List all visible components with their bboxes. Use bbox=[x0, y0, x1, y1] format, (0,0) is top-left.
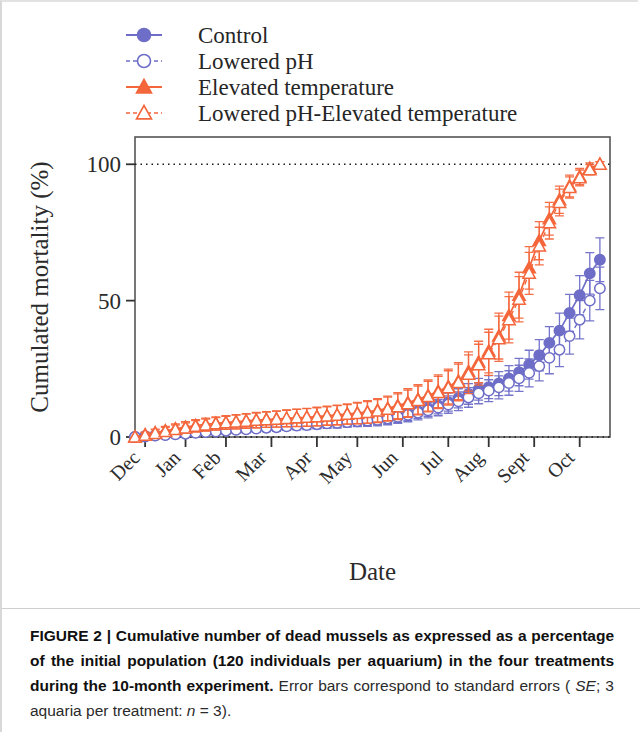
series-3 bbox=[129, 158, 606, 442]
data-point-open-circle bbox=[564, 331, 574, 341]
x-tick-label-Jan: Jan bbox=[150, 446, 184, 480]
series-line bbox=[135, 164, 600, 437]
y-tick-label-50: 50 bbox=[98, 289, 121, 314]
legend-marker-open-circle bbox=[138, 55, 151, 68]
data-point-open-circle bbox=[473, 388, 483, 398]
x-tick-label-Dec: Dec bbox=[106, 446, 144, 484]
x-tick-label-Aug: Aug bbox=[448, 446, 489, 487]
data-point-open-circle bbox=[504, 378, 514, 388]
data-point-open-circle bbox=[574, 315, 584, 325]
plot-frame bbox=[135, 137, 610, 437]
mortality-line-chart: ControlLowered pHElevated temperatureLow… bbox=[2, 2, 640, 608]
x-axis-title: Date bbox=[349, 558, 396, 585]
data-point-filled-circle bbox=[574, 290, 584, 300]
legend-entry-1: Control bbox=[126, 23, 268, 48]
x-tick-label-Sept: Sept bbox=[492, 446, 534, 488]
legend-label-3: Elevated temperature bbox=[198, 75, 394, 100]
data-point-open-circle bbox=[514, 373, 524, 383]
legend-marker-filled-circle bbox=[138, 29, 151, 42]
legend-label-4: Lowered pH-Elevated temperature bbox=[198, 101, 517, 126]
series-4 bbox=[129, 158, 606, 442]
caption-figure-number: FIGURE 2 bbox=[30, 627, 102, 644]
x-tick-label-Jun: Jun bbox=[366, 446, 401, 481]
series-line bbox=[135, 164, 600, 437]
data-point-filled-circle bbox=[585, 268, 595, 278]
data-point-filled-circle bbox=[564, 308, 574, 318]
y-tick-label-100: 100 bbox=[87, 152, 122, 177]
x-tick-label-Apr: Apr bbox=[278, 446, 316, 484]
data-point-open-circle bbox=[554, 345, 564, 355]
data-point-open-circle bbox=[585, 295, 595, 305]
y-tick-label-0: 0 bbox=[110, 425, 122, 450]
caption-separator: | bbox=[102, 627, 116, 644]
caption-italic-se: SE bbox=[575, 677, 596, 694]
legend-entry-4: Lowered pH-Elevated temperature bbox=[126, 101, 517, 126]
data-point-open-circle bbox=[484, 385, 494, 395]
x-tick-label-Jul: Jul bbox=[415, 446, 447, 478]
data-point-open-circle bbox=[534, 361, 544, 371]
caption-normal-text-3: = 3). bbox=[195, 702, 231, 719]
data-point-open-triangle bbox=[594, 158, 606, 169]
x-tick-label-May: May bbox=[315, 446, 357, 488]
data-point-filled-circle bbox=[595, 255, 605, 265]
legend-label-2: Lowered pH bbox=[198, 49, 314, 74]
legend-entry-3: Elevated temperature bbox=[126, 75, 394, 100]
legend-label-1: Control bbox=[198, 23, 268, 48]
x-tick-label-Oct: Oct bbox=[543, 446, 579, 482]
x-tick-label-Feb: Feb bbox=[188, 446, 225, 483]
data-point-open-circle bbox=[544, 353, 554, 363]
y-axis-title: Cumulated mortality (%) bbox=[26, 161, 54, 412]
legend-entry-2: Lowered pH bbox=[126, 49, 314, 74]
data-point-open-circle bbox=[494, 382, 504, 392]
caption-normal-text-1: Error bars correspond to standard errors… bbox=[279, 677, 571, 694]
figure-caption: FIGURE 2 | Cumulative number of dead mus… bbox=[2, 608, 640, 732]
legend-marker-open-triangle bbox=[137, 106, 152, 119]
x-tick-label-Mar: Mar bbox=[231, 446, 270, 485]
data-point-open-circle bbox=[524, 368, 534, 378]
data-point-open-circle bbox=[595, 283, 605, 293]
chart-figure: ControlLowered pHElevated temperatureLow… bbox=[2, 2, 640, 608]
